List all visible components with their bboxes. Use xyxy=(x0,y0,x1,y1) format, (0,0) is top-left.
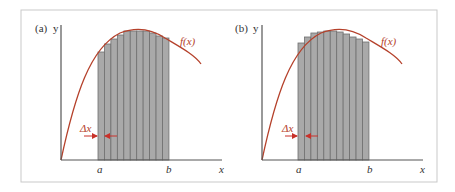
delta-x-label: Δx xyxy=(281,122,293,134)
panel-label: (b) xyxy=(235,22,248,35)
panel-a: (a) y x a b f(x) Δx xyxy=(35,22,224,175)
b-label: b xyxy=(166,163,172,175)
a-label: a xyxy=(97,163,103,175)
riemann-bar xyxy=(330,31,336,160)
riemann-bar xyxy=(137,31,143,160)
riemann-bar xyxy=(304,37,310,160)
x-axis-label: x xyxy=(218,163,224,175)
riemann-bar xyxy=(104,44,110,160)
riemann-bar xyxy=(111,39,117,160)
riemann-bar xyxy=(117,35,123,160)
riemann-sum-figure: (a) y x a b f(x) Δx (b) y x a b f(x) Δx xyxy=(0,0,455,192)
riemann-bar xyxy=(150,33,156,160)
riemann-bar xyxy=(317,32,323,160)
riemann-bars xyxy=(98,31,169,160)
riemann-bar xyxy=(363,42,369,160)
riemann-bar xyxy=(324,31,330,160)
riemann-bar xyxy=(343,34,349,160)
a-label: a xyxy=(296,163,302,175)
y-axis-label: y xyxy=(53,22,59,34)
riemann-bar xyxy=(143,31,149,160)
riemann-bar xyxy=(298,43,304,160)
x-axis-label: x xyxy=(419,163,425,175)
fx-label: f(x) xyxy=(381,35,397,48)
riemann-bar xyxy=(350,37,356,160)
riemann-bar xyxy=(124,31,130,160)
panel-label: (a) xyxy=(35,22,48,35)
figure-canvas: (a) y x a b f(x) Δx (b) y x a b f(x) Δx xyxy=(0,0,455,192)
riemann-bar xyxy=(311,33,317,160)
b-label: b xyxy=(367,163,373,175)
riemann-bar xyxy=(356,39,362,160)
riemann-bar xyxy=(156,36,162,160)
y-axis-label: y xyxy=(253,22,259,34)
riemann-bars xyxy=(298,31,369,160)
delta-x-label: Δx xyxy=(79,122,91,134)
panel-b: (b) y x a b f(x) Δx xyxy=(235,22,425,175)
riemann-bar xyxy=(130,31,136,160)
riemann-bar xyxy=(337,32,343,160)
riemann-bar xyxy=(163,38,169,160)
riemann-bar xyxy=(98,52,104,160)
fx-label: f(x) xyxy=(180,35,196,48)
figure-frame xyxy=(21,10,437,182)
